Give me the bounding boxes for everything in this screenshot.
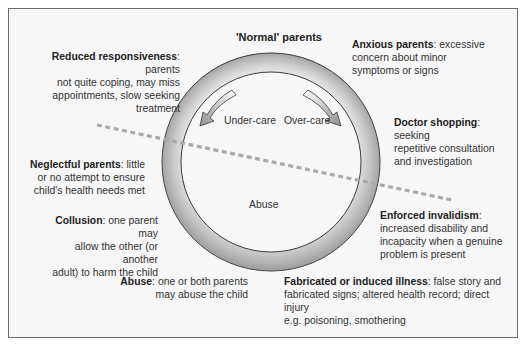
enforced-invalidism-text: : bbox=[479, 210, 482, 221]
enforced-invalidism-line: increased disability and bbox=[380, 222, 520, 235]
abuse-line: may abuse the child bbox=[120, 288, 248, 301]
collusion-title: Collusion bbox=[55, 215, 102, 226]
reduced-responsiveness-line: appointments, slow seeking treatment bbox=[28, 89, 180, 115]
anxious-parents-line: symptoms or signs bbox=[352, 64, 512, 77]
abuse-note: Abuse: one or both parents may abuse the… bbox=[120, 275, 248, 301]
fabricated-illness-line: fabricated signs; altered health record;… bbox=[284, 288, 514, 314]
abuse-title: Abuse bbox=[120, 276, 152, 287]
over-care-label: Over-care bbox=[284, 115, 330, 126]
anxious-parents-line: concern about minor bbox=[352, 51, 512, 64]
enforced-invalidism-line: problem is present bbox=[380, 248, 520, 261]
collusion-line: allow the other (or another bbox=[40, 240, 158, 266]
anxious-parents-title: Anxious parents bbox=[352, 39, 433, 50]
enforced-invalidism-title: Enforced invalidism bbox=[380, 210, 479, 221]
anxious-parents-note: Anxious parents: excessive concern about… bbox=[352, 38, 512, 77]
collusion-text: : one parent may bbox=[103, 215, 158, 239]
normal-parents-title: 'Normal' parents bbox=[236, 31, 322, 43]
enforced-invalidism-line: incapacity when a genuine bbox=[380, 235, 520, 248]
collusion-note: Collusion: one parent may allow the othe… bbox=[40, 214, 158, 279]
fabricated-illness-note: Fabricated or induced illness: false sto… bbox=[284, 275, 514, 327]
neglectful-parents-text: : little bbox=[121, 159, 145, 170]
abuse-text: : one or both parents bbox=[152, 276, 248, 287]
doctor-shopping-title: Doctor shopping bbox=[394, 117, 477, 128]
fabricated-illness-text: : false story and bbox=[428, 276, 501, 287]
reduced-responsiveness-line: not quite coping, may miss bbox=[28, 76, 180, 89]
neglectful-parents-title: Neglectful parents bbox=[30, 159, 121, 170]
doctor-shopping-line: repetitive consultation bbox=[394, 142, 514, 155]
reduced-responsiveness-note: Reduced responsiveness: parents not quit… bbox=[28, 50, 180, 115]
doctor-shopping-note: Doctor shopping: seeking repetitive cons… bbox=[394, 116, 514, 168]
reduced-responsiveness-title: Reduced responsiveness bbox=[52, 51, 177, 62]
center-abuse-label: Abuse bbox=[249, 199, 278, 210]
neglectful-parents-note: Neglectful parents: little or no attempt… bbox=[30, 158, 145, 197]
neglectful-parents-line: or no attempt to ensure bbox=[30, 171, 145, 184]
fabricated-illness-title: Fabricated or induced illness bbox=[284, 276, 428, 287]
doctor-shopping-line: and investigation bbox=[394, 155, 514, 168]
anxious-parents-text: : excessive bbox=[433, 39, 484, 50]
enforced-invalidism-note: Enforced invalidism: increased disabilit… bbox=[380, 209, 520, 261]
inner-circle bbox=[181, 72, 361, 252]
fabricated-illness-line: e.g. poisoning, smothering bbox=[284, 314, 514, 327]
neglectful-parents-line: child's health needs met bbox=[30, 184, 145, 197]
under-care-label: Under-care bbox=[224, 115, 276, 126]
